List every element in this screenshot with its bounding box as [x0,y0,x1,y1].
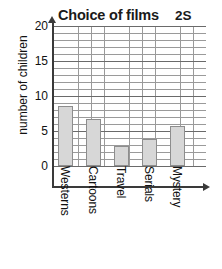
title-code-label: 2S [175,8,192,23]
category-label-mystery: Mystery [170,166,184,258]
bar-travel[interactable] [114,146,129,166]
bar-mystery[interactable] [170,126,185,166]
category-label-serials: Serials [142,166,156,258]
chart-title-row: Choice of films 2S [58,6,222,24]
y-tick-0: 0 [26,161,48,171]
bar-westerns[interactable] [58,106,73,166]
page-title: Choice of films [58,7,159,23]
y-axis-arrow-icon [48,16,56,23]
y-tick-1: 5 [26,126,48,136]
y-tick-4: 20 [26,21,48,31]
category-label-travel: Travel [114,166,128,258]
bar-serials[interactable] [142,139,157,166]
bars-group [53,26,206,166]
x-axis-categories: Westerns Cartoons Travel Serials Mystery [53,166,206,269]
bar-chart: Choice of films 2S number of children 0 … [0,0,222,269]
y-axis-ticks: 0 5 10 15 20 [24,0,48,269]
category-label-westerns: Westerns [58,166,72,258]
y-axis-line [52,22,54,188]
y-tick-3: 15 [26,56,48,66]
y-tick-2: 10 [26,91,48,101]
category-label-cartoons: Cartoons [86,166,100,258]
bar-cartoons[interactable] [86,119,101,166]
